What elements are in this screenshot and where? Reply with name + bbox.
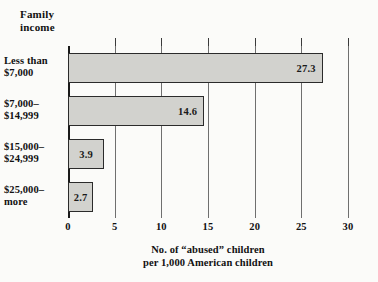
bar-value-label: 27.3 [297, 62, 316, 73]
x-tick-label-10: 10 [156, 221, 167, 232]
category-label: $7,000– $14,999 [4, 98, 66, 123]
x-axis-tick-10 [161, 38, 162, 46]
gridline-30 [348, 46, 349, 218]
bar-value-label: 14.6 [178, 105, 197, 116]
bar: 2.7 [68, 182, 93, 212]
bar-row: 14.6 [68, 96, 348, 126]
bar-row: 27.3 [68, 53, 348, 83]
x-tick-label-20: 20 [249, 221, 260, 232]
bar-value-label: 2.7 [69, 191, 92, 202]
x-tick-label-25: 25 [296, 221, 307, 232]
bar-row: 3.9 [68, 139, 348, 169]
x-axis-tick-15 [208, 38, 209, 46]
category-label: $25,000– more [4, 184, 66, 209]
bar-chart-figure: Family income Less than $7,000$7,000– $1… [0, 0, 378, 282]
category-label-group: Less than $7,000$7,000– $14,999$15,000– … [4, 46, 66, 218]
x-axis-tick-labels: 051015202530 [68, 221, 348, 237]
bar: 27.3 [68, 53, 323, 83]
x-tick-label-15: 15 [203, 221, 214, 232]
caption-line-1: No. of “abused” children [68, 243, 348, 256]
category-label: $15,000– $24,999 [4, 141, 66, 166]
chart-axis-title: Family income [20, 8, 55, 33]
bar: 3.9 [68, 139, 104, 169]
category-label: Less than $7,000 [4, 55, 66, 80]
x-axis-tick-25 [301, 38, 302, 46]
x-axis-tick-5 [115, 38, 116, 46]
bar-row: 2.7 [68, 182, 348, 212]
caption-line-2: per 1,000 American children [68, 256, 348, 269]
bar: 14.6 [68, 96, 204, 126]
bar-value-label: 3.9 [69, 148, 103, 159]
x-axis-tick-30 [348, 38, 349, 46]
x-axis-caption: No. of “abused” children per 1,000 Ameri… [68, 243, 348, 269]
plot-area: 27.314.63.92.7 [68, 46, 348, 218]
x-axis-tick-20 [255, 38, 256, 46]
x-tick-label-5: 5 [112, 221, 117, 232]
x-tick-label-0: 0 [65, 221, 70, 232]
x-tick-label-30: 30 [343, 221, 354, 232]
